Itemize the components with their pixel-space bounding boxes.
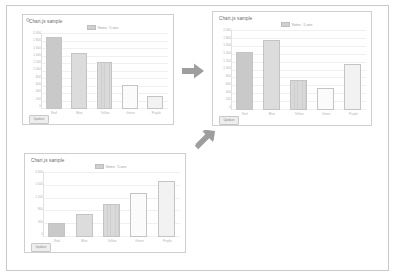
y-axis-tick: 2 000 <box>35 171 43 174</box>
chart-panel-ascending[interactable]: Chart.js sample Votes : 5 ans 2 0001 600… <box>24 153 186 253</box>
x-axis-label: Purple <box>153 239 181 243</box>
chart-title: Chart.js sample <box>31 158 64 163</box>
chart-legend[interactable]: Votes : 5 ans <box>95 164 126 169</box>
y-axis-tick: 1 200 <box>223 60 231 63</box>
x-axis-label: Green <box>313 112 340 116</box>
y-axis-tick: 1 000 <box>223 67 231 70</box>
bar-slot <box>117 33 142 109</box>
bar[interactable] <box>48 223 65 237</box>
bar-slot <box>92 33 117 109</box>
arrow-right-icon <box>181 62 205 80</box>
arrow-down-left-icon <box>193 130 217 154</box>
legend-swatch-icon <box>281 22 290 27</box>
x-axis-label: Green <box>126 239 154 243</box>
bar-slot <box>43 172 70 237</box>
chart-title: Chart.js sample <box>219 16 252 21</box>
bar-slot <box>258 30 285 110</box>
y-axis-tick: 1 600 <box>33 47 41 50</box>
x-axis-label: Green <box>118 111 144 115</box>
legend-swatch-icon <box>95 164 104 169</box>
plot-area: 2 0001 6001 2008004000 <box>30 172 181 237</box>
update-button[interactable]: Update <box>29 115 49 124</box>
bar[interactable] <box>97 62 113 109</box>
y-axis-tick: 1 400 <box>223 52 231 55</box>
x-axis-label: Blue <box>258 112 285 116</box>
y-axis-tick: 1 200 <box>33 61 41 64</box>
x-axis-label: Yellow <box>98 239 126 243</box>
x-axis-labels: RedBlueYellowGreenPurple <box>231 112 367 116</box>
slide-canvas: Chart.js sample Votes : 5 ans 2 0001 800… <box>0 0 395 277</box>
bar[interactable] <box>71 53 87 109</box>
bar[interactable] <box>147 96 163 109</box>
bar-series <box>41 33 168 109</box>
x-axis-label: Purple <box>143 111 169 115</box>
bar[interactable] <box>263 40 280 110</box>
legend-label: Votes : 5 ans <box>292 23 313 27</box>
bar-slot <box>66 33 91 109</box>
bar[interactable] <box>46 37 62 109</box>
bar-slot <box>143 33 168 109</box>
legend-label: Votes : 5 ans <box>106 165 127 169</box>
chart-legend[interactable]: Votes : 5 ans <box>87 25 118 30</box>
x-axis-labels: RedBlueYellowGreenPurple <box>41 111 169 115</box>
bar-slot <box>312 30 339 110</box>
bar-slot <box>285 30 312 110</box>
chart-panel-sorted-mixed[interactable]: Chart.js sample Votes : 5 ans 2 0001 800… <box>212 11 372 126</box>
plot-area: 2 0001 8001 6001 4001 2001 0008006004002… <box>28 33 169 109</box>
chart-legend[interactable]: Votes : 5 ans <box>281 22 312 27</box>
bar-slot <box>231 30 258 110</box>
legend-label: Votes : 5 ans <box>98 26 119 30</box>
bar[interactable] <box>158 181 175 237</box>
y-axis-labels: 2 0001 6001 2008004000 <box>30 172 43 237</box>
chart-title: Chart.js sample <box>29 19 62 24</box>
x-axis-label: Blue <box>67 111 93 115</box>
x-axis-labels: RedBlueYellowGreenPurple <box>43 239 181 243</box>
bar-slot <box>98 172 125 237</box>
bar-slot <box>339 30 366 110</box>
bar-slot <box>41 33 66 109</box>
bar-slot <box>125 172 152 237</box>
y-axis-tick: 1 600 <box>223 44 231 47</box>
y-axis-labels: 2 0001 8001 6001 4001 2001 0008006004002… <box>28 33 41 109</box>
chart-panel-initial[interactable]: Chart.js sample Votes : 5 ans 2 0001 800… <box>22 14 174 125</box>
x-axis-label: Yellow <box>285 112 312 116</box>
bar-slot <box>153 172 180 237</box>
update-button[interactable]: Update <box>31 243 51 252</box>
x-axis-label: Yellow <box>92 111 118 115</box>
y-axis-tick: 1 600 <box>35 183 43 186</box>
bar-series <box>231 30 366 110</box>
y-axis-tick: 2 000 <box>33 32 41 35</box>
bar[interactable] <box>236 52 253 110</box>
x-axis-label: Purple <box>340 112 367 116</box>
bar[interactable] <box>103 204 120 237</box>
y-axis-tick: 1 200 <box>35 196 43 199</box>
bar[interactable] <box>290 80 307 110</box>
legend-swatch-icon <box>87 25 96 30</box>
y-axis-labels: 2 0001 8001 6001 4001 2001 0008006004002… <box>218 30 231 110</box>
y-axis-tick: 1 800 <box>33 39 41 42</box>
bar-slot <box>70 172 97 237</box>
x-axis-label: Blue <box>71 239 99 243</box>
y-axis-tick: 1 400 <box>33 54 41 57</box>
bar[interactable] <box>122 85 138 109</box>
y-axis-tick: 1 000 <box>33 68 41 71</box>
bar-series <box>43 172 180 237</box>
y-axis-tick: 1 800 <box>223 37 231 40</box>
plot-area: 2 0001 8001 6001 4001 2001 0008006004002… <box>218 30 367 110</box>
bar[interactable] <box>130 193 147 237</box>
bar[interactable] <box>344 64 361 110</box>
bar[interactable] <box>76 214 93 237</box>
bar[interactable] <box>317 88 334 110</box>
y-axis-tick: 2 000 <box>223 29 231 32</box>
update-button[interactable]: Update <box>219 116 239 125</box>
